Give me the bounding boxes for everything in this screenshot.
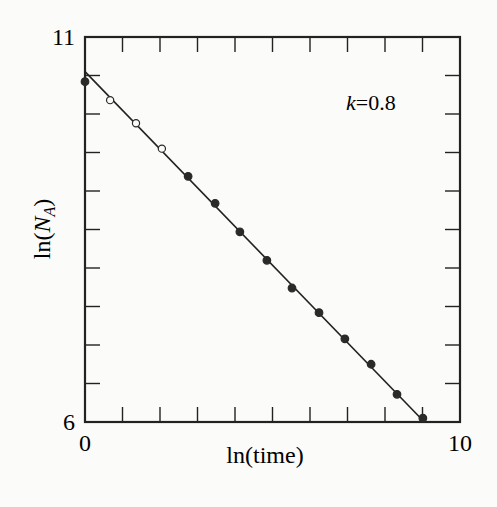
chart: 11 6 0 10 ln(time) ln(NA) k=0.8 [0, 0, 497, 507]
open-data-point [132, 120, 139, 127]
y-tick-label-max: 11 [52, 24, 75, 50]
filled-data-point [184, 173, 192, 181]
filled-data-point [419, 414, 427, 422]
filled-data-point [211, 200, 219, 208]
x-axis-label: ln(time) [226, 442, 303, 468]
y-label-sub: A [41, 207, 58, 218]
open-data-point [158, 145, 165, 152]
filled-data-point [315, 309, 323, 317]
open-data-point [107, 97, 114, 104]
filled-data-point [263, 257, 271, 265]
axis-ticks [85, 37, 460, 422]
y-axis-label: ln(NA) [29, 199, 58, 259]
annotation-value: =0.8 [356, 90, 396, 115]
y-label-prefix: ln( [29, 233, 55, 260]
y-label-suffix: ) [29, 199, 55, 207]
filled-data-point [81, 78, 89, 86]
filled-data-point [341, 335, 349, 343]
y-tick-label-min: 6 [63, 409, 75, 435]
x-tick-label-max: 10 [448, 430, 472, 456]
x-tick-label-min: 0 [79, 430, 91, 456]
filled-data-point [288, 284, 296, 292]
plot-frame [85, 37, 460, 422]
filled-data-point [393, 390, 401, 398]
filled-data-point [236, 228, 244, 236]
rate-constant-annotation: k=0.8 [346, 90, 396, 115]
filled-data-point [367, 360, 375, 368]
